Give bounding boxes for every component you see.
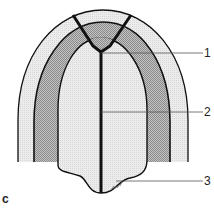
diagram: 1 2 3 c bbox=[0, 0, 214, 208]
label-3: 3 bbox=[204, 174, 211, 188]
label-2: 2 bbox=[204, 105, 211, 119]
label-1: 1 bbox=[204, 46, 211, 60]
panel-label: c bbox=[2, 192, 9, 206]
